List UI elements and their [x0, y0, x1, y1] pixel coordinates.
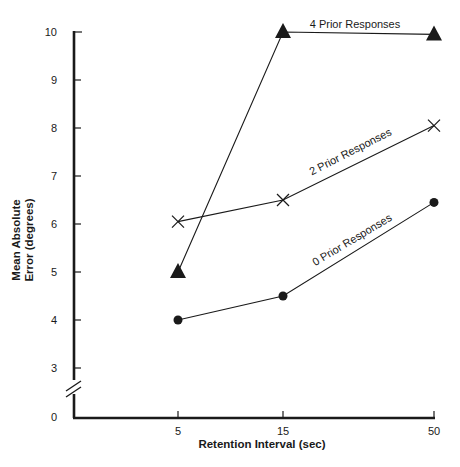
axis-break-mark	[66, 381, 81, 391]
y-tick-label: 9	[51, 74, 57, 86]
x-marker	[172, 216, 184, 228]
y-tick-label: 8	[51, 122, 57, 134]
x-marker	[277, 194, 289, 206]
y-tick-label: 7	[51, 170, 57, 182]
triangle-marker	[170, 263, 186, 278]
svg-text:Error (degrees): Error (degrees)	[23, 198, 35, 281]
x-marker	[428, 120, 440, 132]
triangle-marker	[426, 25, 442, 40]
y-tick-label: 3	[51, 362, 57, 374]
series-layer	[170, 23, 442, 325]
x-tick-label: 15	[277, 425, 289, 437]
circle-marker	[174, 316, 183, 325]
line-chart: 0345678910 51550 Retention Interval (sec…	[0, 0, 460, 467]
series-label-4-prior: 4 Prior Responses	[310, 18, 401, 30]
y-tick-label: 5	[51, 266, 57, 278]
svg-text:Mean Absolute: Mean Absolute	[10, 199, 22, 280]
y-tick-label: 4	[51, 314, 57, 326]
y-axis: 0345678910	[45, 26, 82, 423]
x-axis-title: Retention Interval (sec)	[198, 438, 325, 450]
series-2-prior-responses	[172, 120, 440, 228]
y-axis-title: Mean Absolute Error (degrees)	[10, 198, 35, 281]
circle-marker	[430, 198, 439, 207]
series-0-prior-responses	[174, 198, 439, 325]
series-label-0-prior: 0 Prior Responses	[310, 211, 394, 268]
triangle-marker	[275, 23, 291, 38]
x-tick-label: 5	[175, 425, 181, 437]
circle-marker	[279, 292, 288, 301]
y-tick-label: 10	[45, 26, 57, 38]
series-4-prior-responses	[170, 23, 442, 278]
y-tick-label: 0	[51, 411, 57, 423]
x-tick-label: 50	[428, 425, 440, 437]
y-tick-label: 6	[51, 218, 57, 230]
x-axis: 51550	[73, 411, 440, 437]
